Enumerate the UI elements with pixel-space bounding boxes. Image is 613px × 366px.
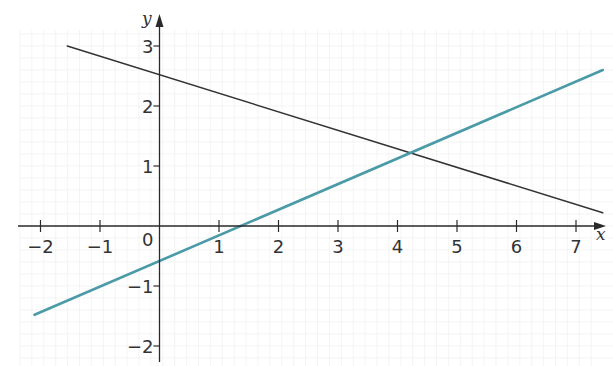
axes-group: x y 0 (18, 8, 606, 362)
y-axis-arrow-icon (156, 14, 164, 27)
x-tick-label: −1 (87, 236, 114, 257)
x-axis-label: x (596, 224, 606, 244)
y-tick-label: −1 (127, 276, 154, 297)
x-tick-label: 1 (213, 236, 224, 257)
x-tick-label: 4 (392, 236, 403, 257)
origin-label: 0 (142, 229, 153, 250)
y-axis-label: y (141, 8, 152, 28)
x-tick-label: 3 (332, 236, 343, 257)
x-tick-label: 5 (451, 236, 462, 257)
y-tick-label: 2 (142, 96, 153, 117)
series-line-dark (67, 46, 603, 213)
y-tick-label: −2 (127, 336, 154, 357)
background-grid (20, 30, 613, 366)
y-tick-label: 1 (142, 156, 153, 177)
x-tick-label: 7 (570, 236, 581, 257)
x-tick-label: −2 (27, 236, 54, 257)
ticks-group: −2−11234567−2−1123 (27, 36, 582, 357)
y-tick-label: 3 (142, 36, 153, 57)
series-group (35, 46, 603, 315)
series-line-blue (35, 70, 603, 315)
line-graph: x y 0 −2−11234567−2−1123 (0, 0, 613, 366)
x-tick-label: 2 (273, 236, 284, 257)
x-tick-label: 6 (511, 236, 522, 257)
